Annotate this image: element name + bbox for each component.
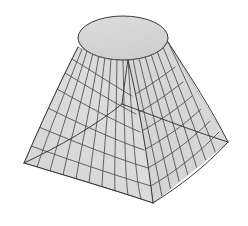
top-disc (78, 16, 168, 60)
surface-3d-plot: Square-to-Circle Transition Surface (0, 0, 248, 226)
figure-root: Square-to-Circle Transition Surface (0, 0, 248, 226)
